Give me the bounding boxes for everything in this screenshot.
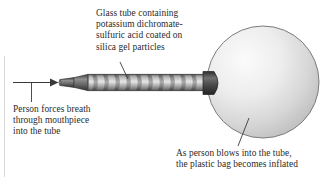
breath-flow-arrow-icon (13, 79, 59, 87)
caption-bag-inflates: As person blows into the tube, the plast… (176, 148, 298, 170)
caption-person-breath: Person forces breath through mouthpiece … (13, 104, 91, 138)
plastic-bag (207, 26, 319, 138)
caption-glass-tube: Glass tube containing potassium dichroma… (96, 8, 183, 53)
glass-tube (88, 74, 206, 90)
diagram-canvas: Glass tube containing potassium dichroma… (0, 0, 331, 177)
tube-bag-connector (203, 72, 218, 95)
mouthpiece-opening (59, 80, 61, 86)
mouthpiece (60, 78, 74, 88)
tube-taper (74, 74, 88, 90)
